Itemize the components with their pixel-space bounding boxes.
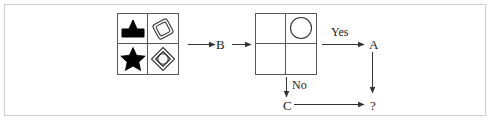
grid-cell-bottom-right [148,44,178,74]
edge-label-no: No [292,79,307,91]
decision-cell-top-right [286,14,316,44]
node-label-c: C [283,99,292,112]
node-label-a: A [369,38,378,51]
edge-label-yes: Yes [331,26,348,38]
decision-cell-bottom-left [256,44,286,74]
node-label-b: B [216,38,225,51]
diamond-with-inner-diamond-shape-icon [148,44,178,74]
circle-outline-shape-icon [286,14,316,44]
decision-cell-top-left [256,14,286,44]
grid-cell-bottom-left [118,44,148,74]
filled-star-shape-icon [118,44,148,74]
grid-cell-top-left [118,14,148,44]
filled-pentagon-shape-icon [118,14,148,44]
decision-shape-grid [255,13,317,75]
rotated-rounded-square-outline-shape-icon [148,14,178,44]
input-shape-grid [117,13,179,75]
grid-cell-top-right [148,14,178,44]
decision-cell-bottom-right [286,44,316,74]
connector-layer [0,0,492,124]
figure-root: B A C ? Yes No [0,0,492,124]
node-label-question: ? [370,99,376,112]
